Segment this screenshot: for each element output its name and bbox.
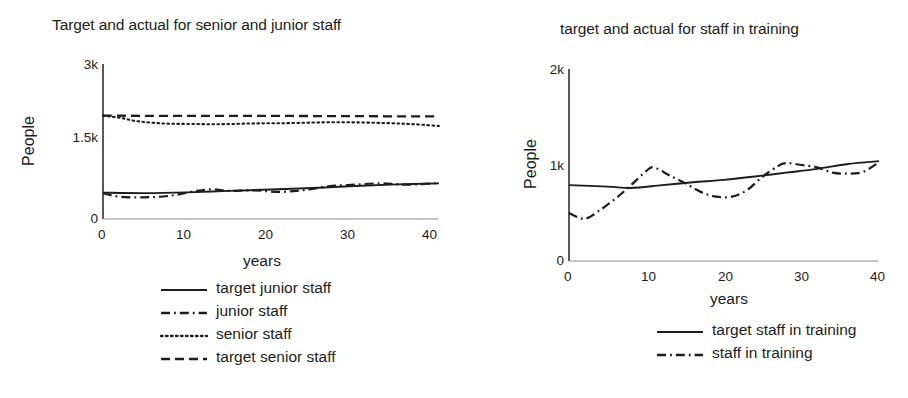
y-tick-label-0: 0 <box>56 211 98 226</box>
x-tick-label-10: 10 <box>641 269 656 284</box>
legend-line-sample-icon <box>160 305 208 317</box>
x-tick-label-20: 20 <box>718 269 733 284</box>
series-group-left <box>103 116 439 198</box>
y-tick-label-1-5k: 1.5k <box>46 130 98 145</box>
legend-line-sample-icon <box>160 328 208 340</box>
chart-title-left: Target and actual for senior and junior … <box>52 16 341 34</box>
legend-label: target junior staff <box>216 279 331 297</box>
legend-item-senior-staff[interactable]: senior staff <box>160 322 335 345</box>
legend-item-target-staff-in-training[interactable]: target staff in training <box>656 318 856 341</box>
x-tick-label-10: 10 <box>176 227 191 242</box>
legend-right: target staff in trainingstaff in trainin… <box>656 318 856 364</box>
y-tick-label-1k: 1k <box>522 158 564 173</box>
chart-panel-senior-junior: Target and actual for senior and junior … <box>0 0 460 398</box>
plot-area-left <box>103 64 439 219</box>
legend-line-sample-icon <box>160 351 208 363</box>
legend-label: target senior staff <box>216 348 335 366</box>
legend-line-sample-icon <box>160 282 208 294</box>
legend-item-junior-staff[interactable]: junior staff <box>160 299 335 322</box>
series-line-staff-in-training <box>569 162 879 219</box>
series-line-target-staff-in-training <box>569 161 879 188</box>
series-group-right <box>569 161 879 219</box>
legend-label: staff in training <box>712 344 813 362</box>
legend-label: junior staff <box>216 302 287 320</box>
legend-label: target staff in training <box>712 321 856 339</box>
x-tick-label-40: 40 <box>422 227 437 242</box>
legend-item-staff-in-training[interactable]: staff in training <box>656 341 856 364</box>
chart-title-right: target and actual for staff in training <box>560 20 799 38</box>
legend-item-target-junior-staff[interactable]: target junior staff <box>160 276 335 299</box>
legend-label: senior staff <box>216 325 292 343</box>
x-tick-label-0: 0 <box>98 227 106 242</box>
x-tick-label-30: 30 <box>794 269 809 284</box>
x-axis-label-left: years <box>243 252 281 270</box>
x-tick-label-20: 20 <box>258 227 273 242</box>
plot-area-right <box>569 69 879 261</box>
y-tick-label-0: 0 <box>522 253 564 268</box>
x-tick-label-30: 30 <box>340 227 355 242</box>
y-tick-label-3k: 3k <box>56 57 98 72</box>
series-line-target-senior-staff <box>103 116 439 117</box>
y-tick-label-2k: 2k <box>522 62 564 77</box>
chart-panel-staff-training: target and actual for staff in training … <box>460 0 908 398</box>
x-axis-label-right: years <box>710 290 748 308</box>
y-axis-label-left: People <box>20 106 38 176</box>
legend-item-target-senior-staff[interactable]: target senior staff <box>160 345 335 368</box>
x-tick-label-0: 0 <box>564 269 572 284</box>
legend-line-sample-icon <box>656 347 704 359</box>
legend-line-sample-icon <box>656 324 704 336</box>
legend-left: target junior staffjunior staffsenior st… <box>160 276 335 368</box>
x-tick-label-40: 40 <box>870 269 885 284</box>
